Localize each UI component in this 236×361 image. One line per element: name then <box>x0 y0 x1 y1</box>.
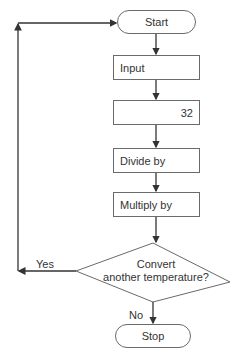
subtract-process: 32 <box>113 100 200 125</box>
divide-label: Divide by <box>120 155 165 167</box>
stop-label: Stop <box>142 330 165 342</box>
yes-label: Yes <box>36 258 54 270</box>
start-label: Start <box>145 16 168 28</box>
input-process: Input <box>113 55 200 80</box>
no-label: No <box>129 309 143 321</box>
multiply-process: Multiply by <box>113 192 200 217</box>
decision-line-2: another temperature? <box>86 271 226 284</box>
divide-process: Divide by <box>113 148 200 173</box>
multiply-label: Multiply by <box>120 199 172 211</box>
decision-line-1: Convert <box>86 258 226 271</box>
input-label: Input <box>120 62 144 74</box>
stop-terminal: Stop <box>115 324 191 348</box>
decision-text: Convert another temperature? <box>86 258 226 284</box>
subtract-label: 32 <box>181 107 193 119</box>
start-terminal: Start <box>117 10 196 34</box>
